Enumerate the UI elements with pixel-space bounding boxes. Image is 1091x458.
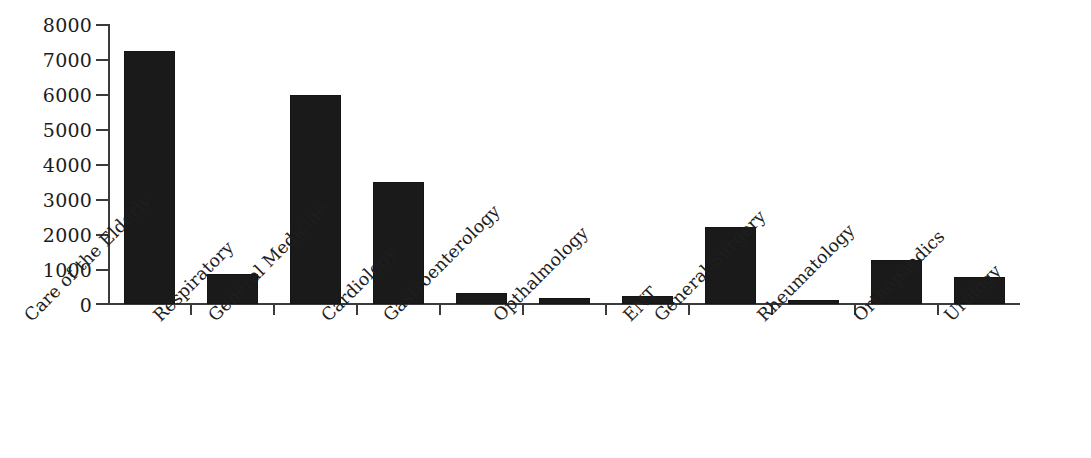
x-axis-tick	[439, 304, 441, 315]
x-axis-tick	[937, 304, 939, 315]
y-tick-label: 3000	[16, 191, 92, 210]
x-axis-tick	[273, 304, 275, 315]
y-tick-label: 4000	[16, 156, 92, 175]
bar-chart: 8000 7000 6000 5000 4000 3000 2000 1000 …	[0, 0, 1091, 458]
x-axis-tick	[605, 304, 607, 315]
y-tick-label: 8000	[16, 16, 92, 35]
y-tick-label: 7000	[16, 51, 92, 70]
y-tick-label: 6000	[16, 86, 92, 105]
bar-care-of-the-elderly	[124, 51, 175, 304]
y-tick-label: 5000	[16, 121, 92, 140]
y-tick-label: 2000	[16, 226, 92, 245]
x-axis-tick	[688, 304, 690, 315]
x-axis-tick	[190, 304, 192, 315]
x-axis-tick	[356, 304, 358, 315]
bar-rheumatology	[788, 300, 839, 304]
bar-opthalmology	[539, 298, 590, 304]
